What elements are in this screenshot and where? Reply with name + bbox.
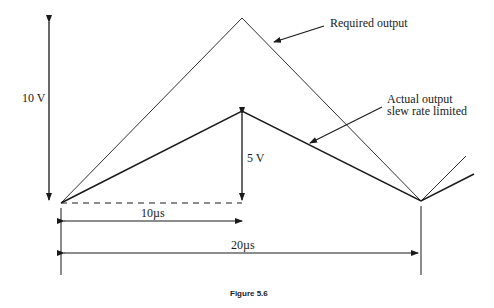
actual-output-label-line2: slew rate limited <box>387 104 467 118</box>
required-output-label: Required output <box>330 16 408 30</box>
half-period-label: 10µs <box>141 206 165 220</box>
figure-caption: Figure 5.6 <box>230 289 268 298</box>
full-period-label: 20µs <box>231 238 255 252</box>
actual-output-waveform <box>61 111 474 203</box>
slew-rate-diagram: 10 V 5 V 10µs 20µs Required output Actua… <box>0 0 494 308</box>
amplitude-10v-label: 10 V <box>22 91 46 105</box>
required-output-pointer <box>274 26 324 42</box>
amplitude-5v-label: 5 V <box>247 151 265 165</box>
actual-output-pointer <box>310 107 382 143</box>
